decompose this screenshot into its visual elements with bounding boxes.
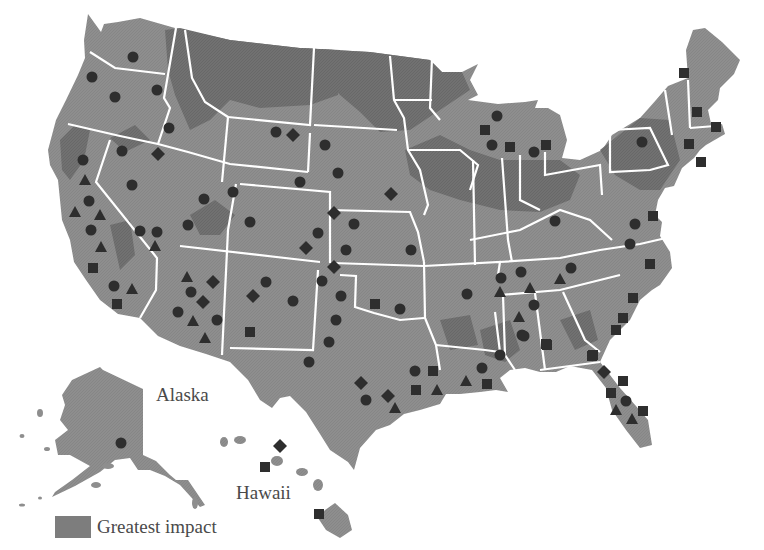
circle-marker bbox=[199, 194, 210, 205]
square-marker bbox=[638, 406, 648, 416]
circle-marker bbox=[128, 52, 139, 63]
square-marker bbox=[711, 122, 721, 132]
square-marker bbox=[542, 340, 552, 350]
circle-marker bbox=[333, 168, 344, 179]
circle-marker bbox=[331, 315, 342, 326]
square-marker bbox=[505, 142, 515, 152]
circle-marker bbox=[550, 216, 561, 227]
square-marker bbox=[482, 379, 492, 389]
legend-swatch bbox=[55, 516, 91, 538]
circle-marker bbox=[86, 225, 97, 236]
square-marker bbox=[684, 139, 694, 149]
us-map bbox=[0, 0, 764, 550]
circle-marker bbox=[324, 337, 335, 348]
square-marker bbox=[260, 462, 270, 472]
square-marker bbox=[692, 107, 702, 117]
circle-marker bbox=[152, 85, 163, 96]
circle-marker bbox=[462, 289, 473, 300]
circle-marker bbox=[361, 395, 372, 406]
legend-label: Greatest impact bbox=[97, 516, 217, 538]
square-marker bbox=[679, 68, 689, 78]
circle-marker bbox=[406, 245, 417, 256]
circle-marker bbox=[135, 226, 146, 237]
circle-marker bbox=[212, 315, 223, 326]
square-marker bbox=[618, 376, 628, 386]
square-marker bbox=[480, 125, 490, 135]
circle-marker bbox=[116, 438, 127, 449]
square-marker bbox=[112, 299, 122, 309]
circle-marker bbox=[320, 140, 331, 151]
square-marker bbox=[314, 509, 324, 519]
square-marker bbox=[370, 299, 380, 309]
legend: Greatest impact bbox=[55, 516, 217, 538]
square-marker bbox=[648, 211, 658, 221]
circle-marker bbox=[152, 227, 163, 238]
circle-marker bbox=[186, 287, 197, 298]
circle-marker bbox=[395, 304, 406, 315]
circle-marker bbox=[84, 196, 95, 207]
circle-marker bbox=[519, 331, 530, 342]
circle-marker bbox=[566, 263, 577, 274]
circle-marker bbox=[317, 276, 328, 287]
circle-marker bbox=[529, 147, 540, 158]
hawaii-label: Hawaii bbox=[236, 482, 291, 504]
circle-marker bbox=[110, 92, 121, 103]
diamond-marker bbox=[273, 439, 287, 453]
square-marker bbox=[541, 140, 551, 150]
circle-marker bbox=[78, 155, 89, 166]
circle-marker bbox=[245, 217, 256, 228]
circle-marker bbox=[164, 123, 175, 134]
square-marker bbox=[588, 350, 598, 360]
circle-marker bbox=[637, 137, 648, 148]
circle-marker bbox=[341, 245, 352, 256]
circle-marker bbox=[87, 72, 98, 83]
circle-marker bbox=[109, 281, 120, 292]
circle-marker bbox=[529, 300, 540, 311]
circle-marker bbox=[173, 307, 184, 318]
square-marker bbox=[611, 325, 621, 335]
circle-marker bbox=[630, 219, 641, 230]
square-marker bbox=[618, 313, 628, 323]
circle-marker bbox=[127, 180, 138, 191]
square-marker bbox=[245, 327, 255, 337]
circle-marker bbox=[183, 220, 194, 231]
circle-marker bbox=[271, 127, 282, 138]
square-marker bbox=[88, 263, 98, 273]
circle-marker bbox=[295, 177, 306, 188]
circle-marker bbox=[304, 357, 315, 368]
square-marker bbox=[411, 385, 421, 395]
circle-marker bbox=[625, 239, 636, 250]
circle-marker bbox=[336, 291, 347, 302]
square-marker bbox=[696, 157, 706, 167]
square-marker bbox=[645, 259, 655, 269]
alaska-label: Alaska bbox=[156, 384, 209, 406]
circle-marker bbox=[117, 146, 128, 157]
circle-marker bbox=[349, 219, 360, 230]
square-marker bbox=[428, 366, 438, 376]
circle-marker bbox=[477, 363, 488, 374]
circle-marker bbox=[492, 111, 503, 122]
circle-marker bbox=[313, 228, 324, 239]
circle-marker bbox=[496, 273, 507, 284]
circle-marker bbox=[261, 277, 272, 288]
circle-marker bbox=[495, 350, 506, 361]
circle-marker bbox=[516, 267, 527, 278]
circle-marker bbox=[621, 396, 632, 407]
circle-marker bbox=[288, 296, 299, 307]
square-marker bbox=[628, 293, 638, 303]
circle-marker bbox=[228, 187, 239, 198]
circle-marker bbox=[410, 366, 421, 377]
circle-marker bbox=[487, 140, 498, 151]
square-marker bbox=[606, 388, 616, 398]
